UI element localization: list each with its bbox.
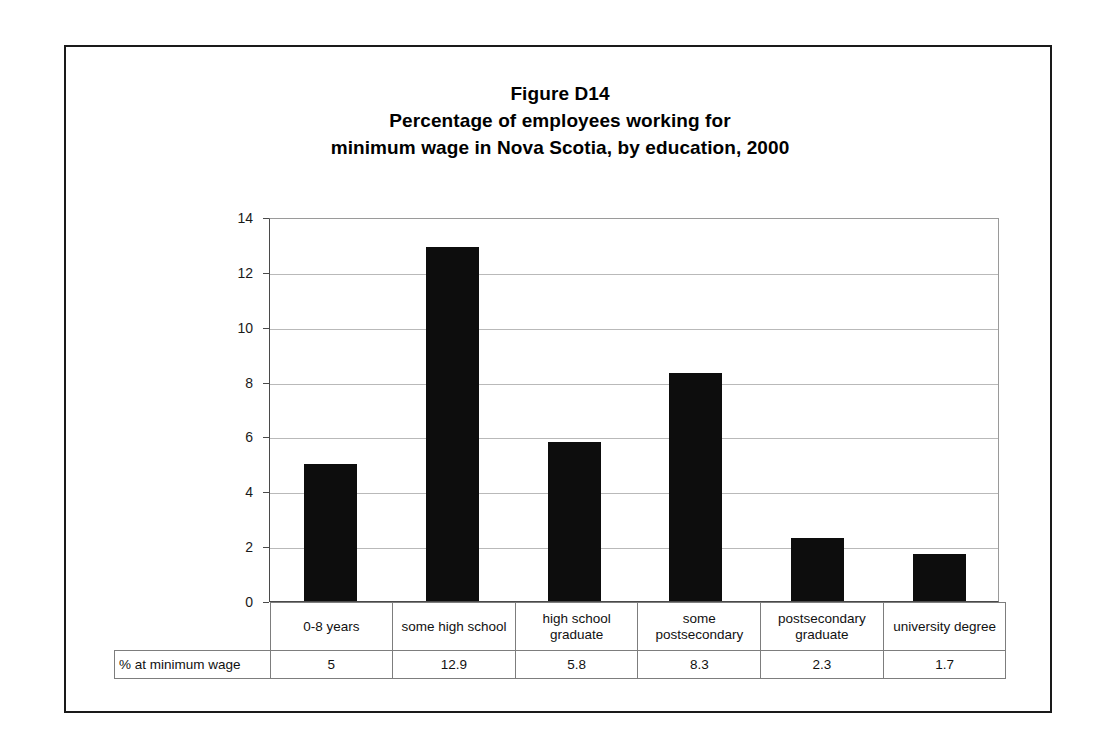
category-label-line: graduate <box>516 627 638 643</box>
category-label-line: graduate <box>761 627 883 643</box>
category-cell: 0-8 years <box>270 603 393 651</box>
y-axis-tick-label: 6 <box>207 430 253 444</box>
category-cell: some high school <box>393 603 516 651</box>
category-label-line: 0-8 years <box>271 619 393 635</box>
figure-page: Figure D14 Percentage of employees worki… <box>0 0 1109 750</box>
y-axis-tick-label: 12 <box>207 266 253 280</box>
category-label-line: some high school <box>393 619 515 635</box>
series-row-header: % at minimum wage <box>115 651 271 679</box>
gridline <box>270 274 998 275</box>
y-axis-tick-label: 4 <box>207 485 253 499</box>
bar <box>669 373 722 601</box>
category-label-line: some <box>638 611 760 627</box>
value-cell: 2.3 <box>761 651 884 679</box>
value-cell: 5.8 <box>515 651 638 679</box>
value-cell: 1.7 <box>883 651 1006 679</box>
y-axis-tick-label: 10 <box>207 321 253 335</box>
plot-area <box>269 218 999 602</box>
gridline <box>270 384 998 385</box>
bar <box>426 247 479 601</box>
table-corner-blank <box>115 603 271 651</box>
y-axis-tick-label: 14 <box>207 211 253 225</box>
gridline <box>270 548 998 549</box>
category-cell: postsecondarygraduate <box>761 603 884 651</box>
category-label-line: university degree <box>884 619 1006 635</box>
category-row: 0-8 yearssome high schoolhigh schoolgrad… <box>115 603 1006 651</box>
data-table: 0-8 yearssome high schoolhigh schoolgrad… <box>114 602 1006 679</box>
value-cell: 12.9 <box>393 651 516 679</box>
category-cell: somepostsecondary <box>638 603 761 651</box>
value-cell: 8.3 <box>638 651 761 679</box>
category-label-line: high school <box>516 611 638 627</box>
value-row: % at minimum wage 512.95.88.32.31.7 <box>115 651 1006 679</box>
category-cell: university degree <box>883 603 1006 651</box>
gridline <box>270 329 998 330</box>
bar <box>304 464 357 601</box>
y-axis-tick-label: 8 <box>207 376 253 390</box>
figure-frame: Figure D14 Percentage of employees worki… <box>64 45 1052 713</box>
y-axis-tick-label: 2 <box>207 540 253 554</box>
bar <box>913 554 966 601</box>
bar-chart: 02468101214 0-8 yearssome high schoolhig… <box>66 47 1054 715</box>
category-label-line: postsecondary <box>761 611 883 627</box>
bar <box>791 538 844 601</box>
value-cell: 5 <box>270 651 393 679</box>
gridline <box>270 438 998 439</box>
gridline <box>270 493 998 494</box>
category-label-line: postsecondary <box>638 627 760 643</box>
bar <box>548 442 601 601</box>
category-cell: high schoolgraduate <box>515 603 638 651</box>
